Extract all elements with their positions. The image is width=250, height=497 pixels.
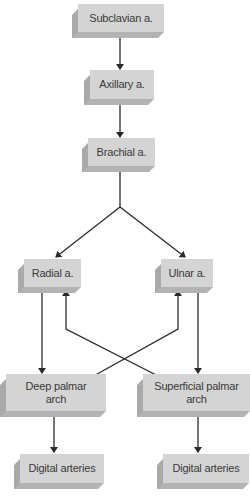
node-label: Subclavian a. <box>78 4 164 32</box>
node-digital-arteries-left: Digital arteries <box>14 454 104 489</box>
arrow-fork-ulnar <box>120 207 185 257</box>
node-label: Deep palmar arch <box>6 374 106 411</box>
node-label: Brachial a. <box>88 138 155 166</box>
node-deep-palmar-arch: Deep palmar arch <box>0 374 106 417</box>
artery-flow-diagram: Subclavian a. Axillary a. Brachial a. Ra… <box>0 0 250 497</box>
node-label: Superficial palmar arch <box>143 374 250 411</box>
node-label: Digital arteries <box>20 454 104 483</box>
node-axillary: Axillary a. <box>84 70 154 105</box>
node-label: Ulnar a. <box>161 259 213 287</box>
arrow-fork-radial <box>56 207 120 257</box>
arrow-deep-ulnar <box>90 291 178 378</box>
node-label: Radial a. <box>24 259 81 287</box>
node-subclavian: Subclavian a. <box>72 4 164 38</box>
node-ulnar: Ulnar a. <box>155 259 213 293</box>
node-brachial: Brachial a. <box>82 138 155 172</box>
node-label: Axillary a. <box>90 70 154 99</box>
node-radial: Radial a. <box>18 259 81 293</box>
node-superficial-palmar-arch: Superficial palmar arch <box>137 374 250 417</box>
node-label: Digital arteries <box>163 454 249 483</box>
node-digital-arteries-right: Digital arteries <box>157 454 249 489</box>
